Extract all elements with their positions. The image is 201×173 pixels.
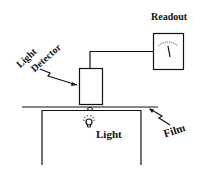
light-label: Light <box>96 128 122 140</box>
detector-wire <box>90 52 154 69</box>
stand <box>42 111 141 166</box>
light-detector <box>80 69 103 105</box>
readout-label: Readout <box>151 11 187 22</box>
light-bulb-icon <box>86 119 92 125</box>
meter-needle-icon <box>168 46 170 57</box>
film-pointer-arrow <box>150 109 170 125</box>
aperture <box>88 108 93 111</box>
detector-pointer-arrow <box>40 69 77 85</box>
meter-scale-icon <box>158 42 178 46</box>
light-rays-icon <box>83 115 95 121</box>
